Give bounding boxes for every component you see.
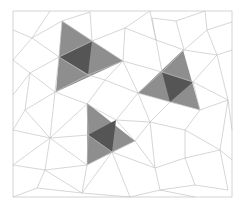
triangular-mesh-diagram — [0, 0, 248, 213]
